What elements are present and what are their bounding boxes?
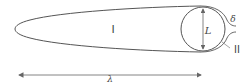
region-ii-label: II — [234, 44, 240, 55]
region-i-label: I — [111, 23, 114, 36]
diameter-label: L — [204, 25, 212, 36]
length-label: λ — [106, 74, 113, 82]
bubble-diagram: I L δ II λ — [0, 0, 252, 82]
film-thickness-label: δ — [230, 14, 235, 24]
bubble-outline — [15, 6, 201, 52]
region-ii-leader — [222, 42, 230, 48]
